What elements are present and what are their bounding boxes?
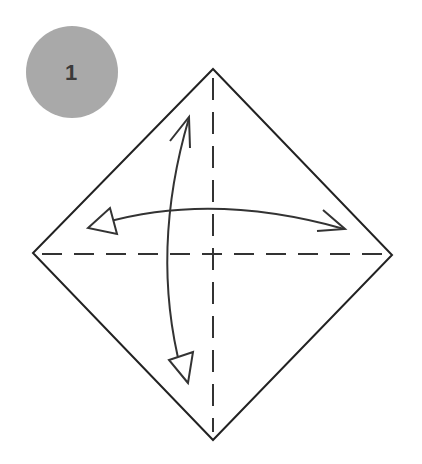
bottom-arrowhead-icon [169,352,193,383]
left-arrowhead-icon [88,208,117,234]
step-number: 1 [65,60,77,85]
horizontal-arc [104,209,344,229]
vertical-arc [167,118,189,370]
horizontal-fold-and-unfold-arrow [88,208,345,234]
step-badge: 1 [26,26,118,118]
vertical-fold-and-unfold-arrow [167,117,193,383]
